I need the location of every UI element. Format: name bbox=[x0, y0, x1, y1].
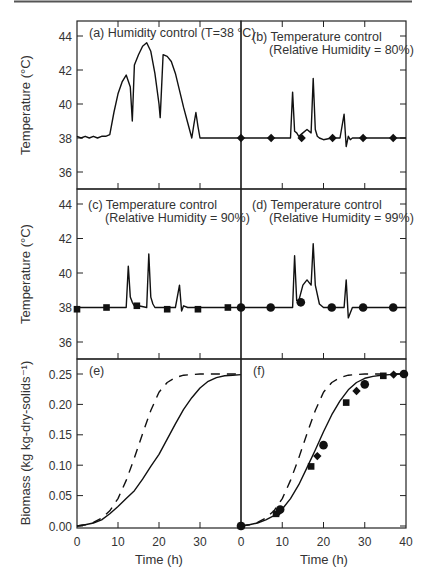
marker-circle bbox=[237, 522, 246, 531]
marker-circle bbox=[276, 505, 285, 514]
marker-circle bbox=[359, 303, 368, 312]
marker-square bbox=[103, 304, 110, 311]
marker-square bbox=[164, 306, 171, 313]
x-tick-label: 40 bbox=[399, 535, 413, 549]
marker-square bbox=[225, 304, 232, 311]
y-tick-label: 0.10 bbox=[49, 459, 73, 473]
series-dashed-line bbox=[241, 374, 406, 526]
marker-square bbox=[195, 306, 202, 313]
y-axis-label-temp-row2: Temperature (°C) bbox=[18, 224, 33, 324]
panel-title: (c) Temperature control bbox=[88, 198, 217, 212]
marker-circle bbox=[327, 303, 336, 312]
marker-circle bbox=[266, 303, 275, 312]
marker-circle bbox=[389, 303, 398, 312]
marker-circle bbox=[297, 298, 306, 307]
y-tick-label: 38 bbox=[59, 132, 73, 146]
x-tick-label: 0 bbox=[238, 535, 245, 549]
marker-circle bbox=[319, 441, 328, 450]
panel-subtitle: (Relative Humidity = 99%) bbox=[269, 211, 414, 225]
x-tick-label: 30 bbox=[358, 535, 372, 549]
y-tick-label: 42 bbox=[59, 64, 73, 78]
panel-title: (b) Temperature control bbox=[252, 30, 382, 44]
panels: 3638404244(a) Humidity control (T=38 °C)… bbox=[49, 21, 414, 549]
series-line bbox=[241, 374, 406, 526]
y-tick-label: 40 bbox=[59, 98, 73, 112]
panel-c: 3638404244(c) Temperature control(Relati… bbox=[59, 189, 250, 359]
y-tick-label: 0.20 bbox=[49, 398, 73, 412]
marker-diamond bbox=[389, 370, 397, 378]
x-axis-label-f: Time (h) bbox=[300, 552, 348, 567]
y-axis-label-biomass: Biomass (kg kg-dry-solids⁻¹) bbox=[18, 361, 33, 525]
series-line bbox=[77, 375, 241, 526]
y-tick-label: 44 bbox=[59, 198, 73, 212]
marker-square bbox=[134, 302, 141, 309]
plot-frame bbox=[77, 359, 241, 528]
marker-circle bbox=[237, 303, 246, 312]
x-tick-label: 10 bbox=[111, 535, 125, 549]
marker-diamond bbox=[389, 134, 397, 142]
x-tick-label: 0 bbox=[74, 535, 81, 549]
marker-circle bbox=[400, 370, 409, 379]
marker-diamond bbox=[352, 387, 360, 395]
y-tick-label: 0.15 bbox=[49, 428, 73, 442]
series-line bbox=[241, 79, 406, 147]
y-tick-label: 36 bbox=[59, 336, 73, 350]
panel-title: (d) Temperature control bbox=[252, 198, 382, 212]
series-dashed-line bbox=[77, 374, 241, 526]
y-axis-label-temp-row1: Temperature (°C) bbox=[18, 55, 33, 155]
x-tick-label: 20 bbox=[317, 535, 331, 549]
y-tick-label: 36 bbox=[59, 166, 73, 180]
marker-square bbox=[343, 399, 350, 406]
panel-title: (a) Humidity control (T=38 °C) bbox=[89, 26, 256, 40]
y-tick-label: 44 bbox=[59, 30, 73, 44]
x-axis-label-e: Time (h) bbox=[135, 552, 183, 567]
series-line bbox=[77, 254, 241, 311]
x-tick-label: 10 bbox=[276, 535, 290, 549]
panel-a: 3638404244(a) Humidity control (T=38 °C) bbox=[59, 21, 256, 189]
marker-square bbox=[74, 306, 81, 313]
marker-square bbox=[380, 373, 387, 380]
y-tick-label: 0.00 bbox=[49, 520, 73, 534]
panel-title: (f) bbox=[253, 364, 265, 378]
panel-b: (b) Temperature control(Relative Humidit… bbox=[237, 21, 414, 189]
series-line bbox=[241, 244, 406, 318]
panel-subtitle: (Relative Humidity = 80%) bbox=[269, 43, 414, 57]
y-tick-label: 38 bbox=[59, 301, 73, 315]
y-tick-label: 40 bbox=[59, 267, 73, 281]
marker-square bbox=[308, 463, 315, 470]
panel-subtitle: (Relative Humidity = 90%) bbox=[105, 211, 250, 225]
series-line bbox=[77, 43, 241, 138]
figure: 3638404244(a) Humidity control (T=38 °C)… bbox=[0, 0, 428, 579]
marker-diamond bbox=[359, 134, 367, 142]
panel-title: (e) bbox=[89, 364, 104, 378]
marker-diamond bbox=[328, 134, 336, 142]
marker-diamond bbox=[267, 134, 275, 142]
panel-e: 0.000.050.100.150.200.250102030(e) bbox=[49, 359, 241, 549]
panel-d: (d) Temperature control(Relative Humidit… bbox=[237, 189, 414, 359]
y-tick-label: 0.25 bbox=[49, 368, 73, 382]
marker-diamond bbox=[237, 134, 245, 142]
panel-f: 010203040(f) bbox=[237, 359, 413, 549]
marker-circle bbox=[360, 380, 369, 389]
y-tick-label: 42 bbox=[59, 232, 73, 246]
x-tick-label: 30 bbox=[193, 535, 207, 549]
x-tick-label: 20 bbox=[152, 535, 166, 549]
y-tick-label: 0.05 bbox=[49, 489, 73, 503]
